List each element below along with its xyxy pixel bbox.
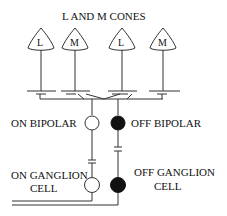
off-ganglion-label-line1: OFF GANGLION — [134, 166, 215, 178]
off-bipolar-cell — [111, 116, 125, 130]
cone-label-l-1: L — [37, 37, 43, 49]
on-ganglion-label-line2: CELL — [30, 182, 58, 194]
cone-label-m-2: M — [158, 37, 167, 49]
on-ganglion-label-line1: ON GANGLION — [11, 169, 88, 181]
off-ganglion-cell — [111, 178, 126, 193]
cone-label-m-1: M — [70, 37, 79, 49]
off-bipolar-label: OFF BIPOLAR — [131, 117, 201, 129]
on-bipolar-cell — [85, 116, 99, 130]
cone-label-l-2: L — [118, 37, 124, 49]
diagram-title: L AND M CONES — [62, 10, 146, 22]
on-bipolar-label: ON BIPOLAR — [11, 117, 77, 129]
off-ganglion-label-line2: CELL — [154, 180, 182, 192]
